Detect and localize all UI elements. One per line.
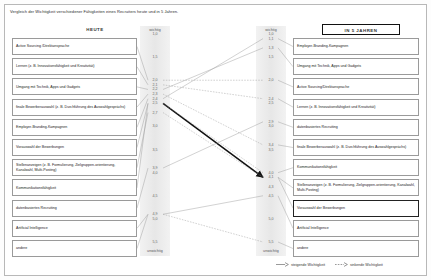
column-header-today: HEUTE [52, 27, 138, 32]
today-item-label: Active Sourcing /Direktansprache [16, 44, 69, 48]
today-item-label: Stellenanzeigen (z. B. Formulierung, Zie… [16, 163, 133, 172]
future-item[interactable]: Vorauswahl der Bewerbungen [293, 200, 419, 217]
axis-right-tick: 3,0 [256, 124, 286, 128]
future-item[interactable]: Lernen (z. B. Innovationsfähigkeit und K… [293, 99, 419, 116]
axis-right-band [256, 26, 286, 256]
future-item-label: Lernen (z. B. Innovationsfähigkeit und K… [297, 105, 376, 109]
future-item-label: andere [297, 246, 308, 250]
future-item[interactable]: Stellenanzeigen (z. B. Formulierung, Zie… [293, 179, 419, 196]
column-header-future: IN 5 JAHREN [322, 24, 400, 35]
today-item[interactable]: Lernen (z. B. Innovationsfähigkeit und K… [12, 58, 137, 75]
axis-right-tick: 2,9 [256, 120, 286, 124]
today-item-label: Kommunikationsfähigkeit [16, 186, 56, 190]
legend: steigende Wichtigkeitsinkende Wichtigkei… [276, 262, 383, 267]
axis-right-tick: 4,3 [256, 185, 286, 189]
axis-right-tick: 1,0 [256, 32, 286, 36]
today-item[interactable]: Employer-Branding-Kampagnen [12, 119, 137, 136]
future-item-label: Artificial Intelligence [297, 226, 329, 230]
axis-left-tick: 4,5 [140, 194, 170, 198]
axis-left-tick: 2,0 [140, 78, 170, 82]
future-item-label: Umgang mit Technik, Apps und Gadgets [297, 64, 361, 68]
today-item-label: datenbasiertes Recruiting [16, 206, 57, 210]
today-item[interactable]: Stellenanzeigen (z. B. Formulierung, Zie… [12, 159, 137, 176]
today-item[interactable]: datenbasiertes Recruiting [12, 200, 137, 217]
axis-right-bottom-label: unwichtig [256, 249, 286, 253]
axis-right-tick: 2,0 [256, 78, 286, 82]
axis-left-tick: 3,0 [140, 124, 170, 128]
legend-arrow-icon [335, 262, 348, 267]
axis-right-tick: 4,1 [256, 175, 286, 179]
page-title: Vergleich der Wichtigkeit verschiedener … [10, 9, 310, 14]
future-item-label: Employer-Branding-Kampagnen [297, 44, 348, 48]
today-item[interactable]: finale Bewerberauswahl (z. B. Durchführu… [12, 99, 137, 116]
legend-label: steigende Wichtigkeit [291, 263, 325, 267]
future-item-label: finale Bewerberauswahl (z. B. Durchführu… [297, 145, 406, 149]
axis-right-tick: 5,0 [256, 217, 286, 221]
axis-left-tick: 2,2 [140, 87, 170, 91]
future-item[interactable]: Artificial Intelligence [293, 220, 419, 237]
today-item[interactable]: Artificial Intelligence [12, 220, 137, 237]
today-item-label: Vorauswahl der Bewerbungen [16, 145, 64, 149]
today-item[interactable]: Active Sourcing /Direktansprache [12, 38, 137, 55]
legend-item: sinkende Wichtigkeit [335, 262, 383, 267]
axis-left-tick: 2,7 [140, 111, 170, 115]
axis-right-tick: 2,4 [256, 97, 286, 101]
axis-left-bottom-label: unwichtig [140, 249, 170, 253]
today-item-label: finale Bewerberauswahl (z. B. Durchführu… [16, 105, 125, 109]
future-item-label: Vorauswahl der Bewerbungen [297, 206, 345, 210]
axis-left-tick: 2,1 [140, 83, 170, 87]
axis-left-tick: 3,9 [140, 166, 170, 170]
legend-label: sinkende Wichtigkeit [350, 263, 383, 267]
today-item-label: Artificial Intelligence [16, 226, 48, 230]
future-item-label: Stellenanzeigen (z. B. Formulierung, Zie… [297, 183, 415, 192]
today-item[interactable]: Umgang mit Technik, Apps und Gadgets [12, 78, 137, 95]
future-item[interactable]: andere [293, 240, 419, 257]
legend-arrow-icon [276, 262, 289, 267]
future-item-label: datenbasiertes Recruiting [297, 125, 338, 129]
today-item-label: Umgang mit Technik, Apps und Gadgets [16, 85, 80, 89]
axis-left-tick: 1,0 [140, 32, 170, 36]
today-item-label: andere [16, 246, 27, 250]
today-item-label: Lernen (z. B. Innovationsfähigkeit und K… [16, 64, 95, 68]
axis-right-tick: 4,5 [256, 194, 286, 198]
slide-canvas: Vergleich der Wichtigkeit verschiedener … [0, 0, 431, 280]
axis-right-tick: 3,4 [256, 143, 286, 147]
today-item-label: Employer-Branding-Kampagnen [16, 125, 67, 129]
axis-right-tick: 1,1 [256, 37, 286, 41]
axis-left-tick: 2,4 [140, 97, 170, 101]
future-item[interactable]: Employer-Branding-Kampagnen [293, 38, 419, 55]
axis-right-tick: 5,5 [256, 240, 286, 244]
today-item[interactable]: Vorauswahl der Bewerbungen [12, 139, 137, 156]
axis-left-tick: 2,3 [140, 92, 170, 96]
axis-right-tick: 1,5 [256, 55, 286, 59]
axis-right-tick: 4,0 [256, 171, 286, 175]
axis-left-tick: 5,5 [140, 240, 170, 244]
axis-left-band [140, 26, 170, 256]
future-item[interactable]: datenbasiertes Recruiting [293, 119, 419, 136]
axis-left-tick: 4,9 [140, 212, 170, 216]
axis-left-tick: 3,5 [140, 148, 170, 152]
legend-item: steigende Wichtigkeit [276, 262, 325, 267]
axis-left-tick: 1,5 [140, 55, 170, 59]
future-item[interactable]: finale Bewerberauswahl (z. B. Durchführu… [293, 139, 419, 156]
future-item-label: Active Sourcing/Direktansprache [297, 85, 349, 89]
future-item-label: Kommunikationsfähigkeit [297, 165, 337, 169]
future-item[interactable]: Kommunikationsfähigkeit [293, 159, 419, 176]
axis-left-tick: 4,0 [140, 171, 170, 175]
today-item[interactable]: Kommunikationsfähigkeit [12, 179, 137, 196]
future-item[interactable]: Umgang mit Technik, Apps und Gadgets [293, 58, 419, 75]
axis-left-tick: 2,5 [140, 101, 170, 105]
today-item[interactable]: andere [12, 240, 137, 257]
axis-right-tick: 1,3 [256, 46, 286, 50]
axis-right-tick: 3,5 [256, 148, 286, 152]
axis-left-tick: 5,0 [140, 217, 170, 221]
future-item[interactable]: Active Sourcing/Direktansprache [293, 78, 419, 95]
axis-right-tick: 2,5 [256, 101, 286, 105]
